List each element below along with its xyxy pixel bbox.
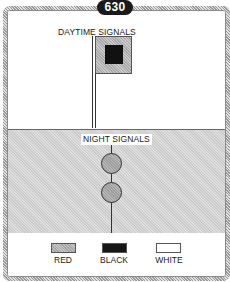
flag-black-square-icon [105, 45, 123, 64]
signal-card: DAYTIME SIGNALS NIGHT SIGNALS RED BLACK … [7, 10, 226, 277]
daytime-flag-icon [95, 36, 132, 74]
figure-number-badge: 630 [97, 0, 133, 15]
red-light-top-icon [101, 153, 122, 174]
legend-swatch-white [156, 243, 181, 253]
legend-swatch-black [102, 243, 127, 253]
legend-label-white: WHITE [149, 255, 189, 265]
signal-card-frame: DAYTIME SIGNALS NIGHT SIGNALS RED BLACK … [3, 6, 230, 281]
legend-swatch-red [51, 243, 76, 253]
daytime-section: DAYTIME SIGNALS [8, 11, 225, 129]
legend-label-black: BLACK [94, 255, 134, 265]
red-light-bottom-icon [101, 182, 122, 203]
legend-label-red: RED [43, 255, 83, 265]
night-section: NIGHT SIGNALS [8, 130, 225, 233]
color-legend: RED BLACK WHITE [8, 233, 225, 277]
night-title: NIGHT SIGNALS [81, 134, 152, 145]
